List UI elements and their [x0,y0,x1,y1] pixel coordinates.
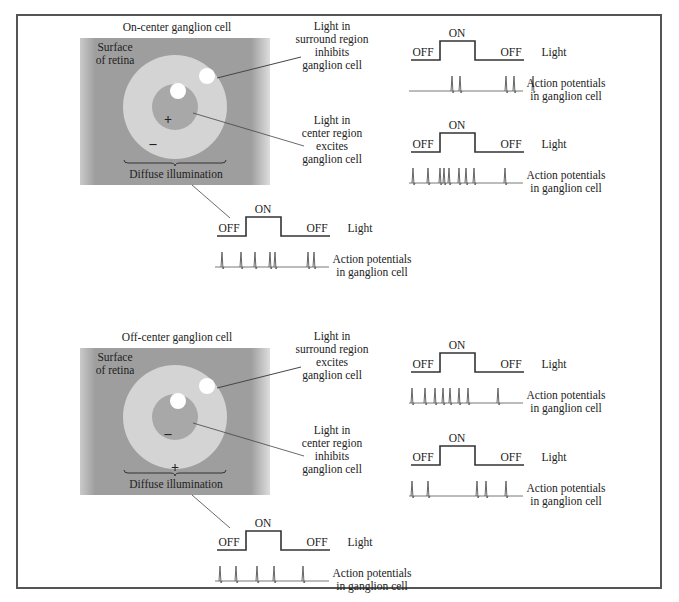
trace-off-diffuse: OFFONOFFLightAction potentialsin ganglio… [215,517,412,593]
on-label: ON [449,339,466,351]
action-potential-spike [443,168,446,185]
center-callout: Light in [314,114,351,127]
on-label: ON [255,203,272,215]
action-potential-spike [465,168,468,185]
action-potential-spike [459,76,462,93]
light-label: Light [542,138,568,151]
center-light-spot [170,393,186,409]
action-potential-spike [412,168,415,185]
surround-callout: excites [316,356,348,368]
off-label: OFF [500,451,521,463]
center-callout: center region [302,127,363,140]
off-label: OFF [500,358,521,370]
off-label: OFF [412,451,433,463]
ap-label: in ganglion cell [336,266,408,279]
surround-callout: surround region [295,33,368,46]
action-potential-spike [473,168,476,185]
action-potential-spike [411,481,414,498]
surface-label: Surface [97,351,132,363]
ap-label: Action potentials [527,389,606,402]
action-potential-spike [269,252,272,269]
ap-label: Action potentials [333,567,412,580]
surround-sign: – [149,136,158,151]
ap-label: in ganglion cell [530,402,602,415]
ap-label: Action potentials [527,482,606,495]
surface-label: of retina [96,364,135,376]
ap-label: in ganglion cell [530,495,602,508]
panel-title: On-center ganglion cell [123,21,232,34]
on-center-panel: On-center ganglion cellSurfaceof retina+… [80,20,369,218]
action-potential-spike [449,388,452,405]
center-callout: center region [302,437,363,450]
off-label: OFF [306,222,327,234]
trace-on-surround: OFFONOFFLightAction potentialsin ganglio… [409,27,606,103]
diffuse-label: Diffuse illumination [129,168,223,180]
off-label: OFF [218,222,239,234]
trace-off-center: OFFONOFFLightAction potentialsin ganglio… [409,432,606,508]
action-potential-spike [254,252,257,269]
action-potential-spike [476,481,479,498]
leader-line [192,185,230,218]
action-potential-spike [302,566,305,583]
action-potential-spike [256,566,259,583]
ap-label: Action potentials [527,169,606,182]
action-potential-spike [313,252,316,269]
receptive-field-diagram: On-center ganglion cellSurfaceof retina+… [0,0,679,602]
off-center-panel: Off-center ganglion cellSurfaceof retina… [80,330,369,528]
off-label: OFF [500,46,521,58]
action-potential-spike [221,252,224,269]
trace-off-surround: OFFONOFFLightAction potentialsin ganglio… [409,339,606,415]
surround-callout: Light in [314,20,351,33]
on-label: ON [449,119,466,131]
action-potential-spike [424,388,427,405]
action-potential-spike [434,388,437,405]
action-potential-spike [219,566,222,583]
off-label: OFF [500,138,521,150]
action-potential-spike [458,168,461,185]
surround-light-spot [199,378,215,394]
on-label: ON [449,432,466,444]
off-label: OFF [412,46,433,58]
ap-label: Action potentials [333,253,412,266]
action-potential-spike [451,76,454,93]
center-callout: ganglion cell [302,463,362,476]
action-potential-spike [307,252,310,269]
off-label: OFF [306,536,327,548]
action-potential-spike [467,388,470,405]
center-callout: excites [316,140,348,152]
action-potential-spike [273,566,276,583]
surround-callout: ganglion cell [302,59,362,72]
off-label: OFF [412,138,433,150]
light-label: Light [542,46,568,59]
action-potential-spike [274,252,277,269]
surface-label: Surface [97,41,132,53]
center-light-spot [170,83,186,99]
off-label: OFF [412,358,433,370]
light-label: Light [542,451,568,464]
diffuse-label: Diffuse illumination [129,478,223,490]
figure-stage: On-center ganglion cellSurfaceof retina+… [0,0,679,602]
center-callout: Light in [314,424,351,437]
surround-callout: Light in [314,330,351,343]
light-label: Light [348,222,374,235]
action-potential-spike [505,76,508,93]
action-potential-spike [235,566,238,583]
surface-label: of retina [96,54,135,66]
action-potential-spike [411,388,414,405]
action-potential-spike [427,168,430,185]
surround-callout: ganglion cell [302,369,362,382]
trace-on-diffuse: OFFONOFFLightAction potentialsin ganglio… [215,203,412,279]
light-label: Light [542,358,568,371]
ap-label: in ganglion cell [336,580,408,593]
action-potential-spike [504,168,507,185]
surround-light-spot [199,68,215,84]
leader-line [192,495,230,528]
action-potential-spike [439,168,442,185]
light-label: Light [348,536,374,549]
on-label: ON [255,517,272,529]
panel-title: Off-center ganglion cell [122,331,232,344]
action-potential-spike [427,481,430,498]
ap-label: Action potentials [527,77,606,90]
action-potential-spike [485,481,488,498]
action-potential-spike [497,388,500,405]
